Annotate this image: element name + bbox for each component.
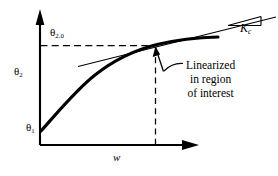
y-intercept-label-subscript: 1 xyxy=(31,127,34,134)
y-axis xyxy=(36,9,45,145)
slope-gain-label-subscript: c xyxy=(248,27,251,36)
callout-line-2: in region xyxy=(186,72,235,86)
linearization-figure: θ2.0 θ2 θ1 w Kc Linearized in region of … xyxy=(0,0,278,176)
x-axis-label: w xyxy=(113,152,120,164)
callout-leader-arrow xyxy=(153,47,183,72)
y-intercept-label: θ1 xyxy=(26,122,35,134)
x-axis xyxy=(40,140,199,150)
callout-line-3: of interest xyxy=(186,86,235,100)
linearization-callout-text: Linearized in region of interest xyxy=(186,58,235,100)
operating-point-y-label: θ2.0 xyxy=(50,27,64,39)
y-axis-label-subscript: 2 xyxy=(19,71,22,78)
slope-gain-label: Kc xyxy=(240,22,251,35)
slope-gain-label-symbol: K xyxy=(240,21,248,35)
figure-canvas xyxy=(0,0,278,176)
callout-line-1: Linearized xyxy=(186,58,235,72)
y-axis-label: θ2 xyxy=(14,66,23,78)
operating-point-y-label-subscript: 2.0 xyxy=(55,32,64,39)
